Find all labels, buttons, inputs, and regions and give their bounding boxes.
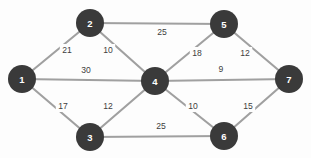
graph-node-4[interactable]: 4: [141, 67, 169, 95]
edge-weight-4-5: 18: [190, 47, 204, 59]
edge-weight-2-5: 25: [155, 26, 169, 38]
graph-edge-3-6: [90, 136, 224, 137]
edge-weight-label: 18: [192, 48, 202, 58]
graph-node-label-3: 3: [87, 132, 92, 143]
graph-node-label-6: 6: [221, 131, 226, 142]
edge-weight-4-6: 10: [186, 100, 200, 112]
edge-weight-1-2: 21: [60, 44, 74, 56]
graph-node-label-4: 4: [152, 76, 158, 87]
edge-weight-label: 10: [103, 45, 113, 55]
graph-node-5[interactable]: 5: [210, 10, 238, 38]
graph-node-6[interactable]: 6: [210, 122, 238, 150]
edge-weight-3-4: 12: [101, 100, 115, 112]
edge-weight-1-3: 17: [56, 100, 70, 112]
graph-edge-4-7: [155, 79, 289, 81]
graph-node-label-5: 5: [221, 19, 227, 30]
edge-weight-label: 21: [62, 45, 72, 55]
edge-weight-6-7: 15: [241, 100, 255, 112]
edge-weight-label: 25: [156, 121, 166, 131]
graph-node-label-1: 1: [19, 74, 25, 85]
graph-node-label-2: 2: [87, 18, 92, 29]
edge-weight-2-4: 10: [101, 44, 115, 56]
edge-weight-label: 17: [58, 101, 68, 111]
edge-weight-4-7: 9: [216, 63, 225, 75]
edge-weight-label: 25: [157, 27, 167, 37]
graph-node-7[interactable]: 7: [275, 65, 303, 93]
edge-weight-label: 30: [81, 65, 91, 75]
edge-weight-label: 10: [188, 101, 198, 111]
graph-node-2[interactable]: 2: [76, 9, 104, 37]
graph-node-1[interactable]: 1: [8, 65, 36, 93]
edge-weight-label: 9: [219, 64, 224, 74]
graph-canvas: 21301725101225189101215 1234567: [0, 0, 311, 158]
edge-weight-5-7: 12: [238, 47, 252, 59]
edge-weight-1-4: 30: [79, 64, 93, 76]
graph-node-label-7: 7: [286, 74, 291, 85]
edge-weight-label: 15: [243, 101, 253, 111]
graph-node-3[interactable]: 3: [76, 123, 104, 151]
graph-edge-1-4: [22, 79, 155, 81]
edge-weight-label: 12: [103, 101, 113, 111]
edge-weight-label: 12: [240, 48, 250, 58]
graph-diagram: 21301725101225189101215 1234567: [0, 0, 311, 158]
edge-weight-3-6: 25: [154, 120, 168, 132]
graph-edge-2-5: [90, 23, 224, 24]
